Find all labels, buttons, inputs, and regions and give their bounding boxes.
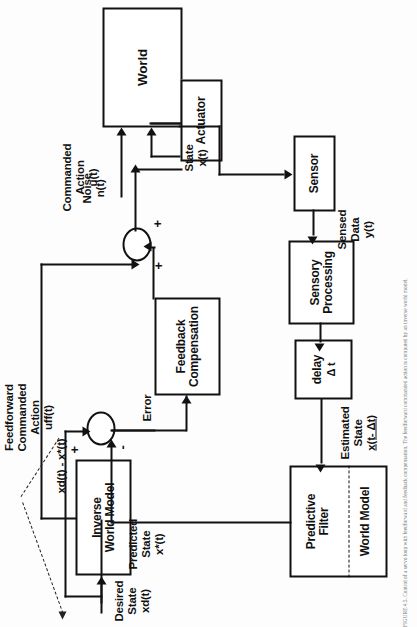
- block-sensory-processing-label-1: Sensory: [308, 259, 321, 305]
- label-error: Error: [140, 394, 153, 421]
- block-delay-label: delay: [310, 354, 323, 384]
- wire-predicted-state-to-summer: [110, 445, 112, 523]
- arrowhead-delay-to-predictive-filter: [315, 464, 325, 472]
- predictive-filter-divider: [348, 465, 349, 577]
- label-feedforward-commanded-action: Feedforward Commanded Action uff(t): [2, 383, 54, 451]
- block-actuator-label: Actuator: [194, 96, 207, 144]
- block-diagram: World Actuator Sensor Sensory Processing…: [0, 0, 417, 627]
- label-desired-state: Desired State xd(t): [112, 580, 151, 621]
- block-feedback-compensation[interactable]: Feedback Compensation: [154, 297, 220, 395]
- block-feedback-compensation-label-1: Feedback: [174, 319, 187, 373]
- wire-state-to-sensor: [218, 173, 284, 175]
- block-world-label: World: [134, 49, 149, 86]
- arrowhead-desired-state-to-inverse-model: [96, 576, 106, 584]
- wire-actuator-world-vert: [150, 155, 180, 157]
- arrowhead-command-to-actuator: [130, 164, 140, 172]
- label-error-expression: xd(t) - x*(t): [54, 438, 67, 493]
- label-estimated-state: Estimated State x(t- Δt): [338, 406, 377, 459]
- block-predictive-filter-label-1: Predictive: [304, 493, 317, 548]
- block-feedback-compensation-label-2: Compensation: [187, 306, 200, 387]
- wire-sensory-processing-to-delay: [319, 322, 321, 342]
- arrowhead-feedforward-to-command-summer: [131, 259, 139, 269]
- wire-feedforward-riser: [40, 517, 76, 519]
- label-sensed-data: Sensed Data y(t): [335, 209, 374, 249]
- wire-desired-branch-riser: [64, 595, 102, 597]
- block-world-model-label: World Model: [358, 465, 371, 577]
- block-world[interactable]: World: [102, 7, 182, 127]
- arrowhead-error-to-feedback-compensation: [181, 395, 191, 403]
- wire-sensor-to-sensory-processing: [312, 209, 314, 235]
- wire-actuator-world-link: [150, 133, 152, 157]
- wire-desired-state-to-inverse-model: [100, 583, 102, 603]
- sign-sum-error-minus: -: [114, 445, 129, 449]
- arrowhead-dashed-annotation: [58, 611, 66, 619]
- block-predictive-filter[interactable]: Predictive Filter: [289, 465, 387, 577]
- arrowhead-desired-to-error-summer: [82, 426, 90, 436]
- arrowhead-sensor-to-sensory-processing: [307, 236, 317, 244]
- wire-delay-to-predictive-filter: [320, 398, 322, 463]
- block-sensor-label: Sensor: [307, 153, 320, 192]
- block-sensory-processing[interactable]: Sensory Processing: [288, 240, 354, 324]
- arrowhead-sensory-processing-to-delay: [314, 343, 324, 351]
- wire-command-to-actuator: [134, 169, 136, 231]
- arrowhead-predicted-state-to-summer: [106, 439, 116, 447]
- wire-command-to-actuator-drop: [134, 168, 182, 170]
- wire-error-vert: [110, 429, 186, 431]
- sign-sum-error-plus: +: [66, 445, 81, 453]
- block-sensor[interactable]: Sensor: [293, 135, 335, 211]
- wire-noise-to-world: [120, 133, 122, 197]
- block-predictive-filter-label-2: Filter: [317, 507, 330, 535]
- arrowhead-feedback-to-command-summer: [143, 241, 151, 251]
- wire-feedback-to-command-summer: [152, 247, 154, 299]
- block-inverse-world-model[interactable]: Inverse World Model: [75, 459, 131, 575]
- figure-page: World Actuator Sensor Sensory Processing…: [0, 0, 417, 627]
- label-commanded-action: Commanded Action u(t): [60, 143, 99, 211]
- block-sensory-processing-label-2: Processing: [321, 251, 334, 314]
- arrowhead-state-to-sensor: [284, 170, 292, 180]
- label-predicted-state: Predicted State x*(t): [126, 518, 165, 569]
- figure-caption: FIGURE 4.5. Control of a servo loop with…: [402, 0, 416, 627]
- sign-sum-command-plus-right: +: [149, 219, 164, 227]
- wire-world-state-down: [178, 125, 220, 127]
- arrowhead-actuator-to-world: [146, 127, 156, 135]
- arrowhead-noise-to-world: [116, 127, 126, 135]
- wire-feedforward-into-summer-vert: [40, 263, 134, 265]
- block-delay-amount: Δ t: [324, 362, 336, 376]
- label-state: State x(t): [182, 144, 208, 171]
- wire-actuator-riser: [150, 122, 180, 124]
- wire-world-to-state: [218, 125, 220, 175]
